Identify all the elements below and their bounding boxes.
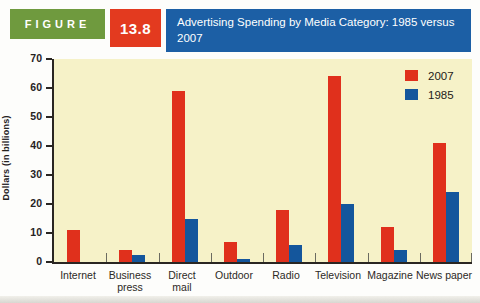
category-label-business-press: Businesspress bbox=[104, 269, 156, 294]
bar-1985-business-press bbox=[132, 255, 145, 262]
legend: 20071985 bbox=[405, 69, 454, 107]
category-label-television: Television bbox=[312, 269, 364, 294]
category-label-internet: Internet bbox=[52, 269, 104, 294]
x-tick-5 bbox=[315, 253, 316, 262]
figure-number-box: 13.8 bbox=[110, 9, 161, 47]
figure-title-text: Advertising Spending by Media Category: … bbox=[177, 16, 454, 44]
x-tick-1 bbox=[106, 253, 107, 262]
y-tick-label-60: 60 bbox=[8, 81, 42, 93]
page-edge-shadow bbox=[0, 296, 480, 303]
figure-header: FIGURE 13.8 Advertising Spending by Medi… bbox=[10, 9, 471, 52]
category-label-news-paper: News paper bbox=[416, 269, 472, 294]
legend-label-1985: 1985 bbox=[428, 89, 454, 101]
bar-2007-television bbox=[328, 76, 341, 262]
legend-swatch-2007 bbox=[405, 70, 418, 81]
bar-1985-magazine bbox=[394, 250, 407, 262]
x-tick-8 bbox=[471, 253, 472, 262]
figure-label-text: FIGURE bbox=[25, 18, 91, 30]
bar-1985-radio bbox=[289, 245, 302, 262]
category-label-radio: Radio bbox=[260, 269, 312, 294]
y-tick-label-40: 40 bbox=[8, 139, 42, 151]
x-axis-labels: InternetBusinesspressDirectmailOutdoorRa… bbox=[52, 269, 472, 294]
y-tick-label-50: 50 bbox=[8, 110, 42, 122]
category-label-outdoor: Outdoor bbox=[208, 269, 260, 294]
x-tick-7 bbox=[420, 253, 421, 262]
y-tick-label-20: 20 bbox=[8, 197, 42, 209]
bar-2007-magazine bbox=[381, 227, 394, 262]
legend-label-2007: 2007 bbox=[428, 70, 454, 82]
x-tick-4 bbox=[263, 253, 264, 262]
bar-2007-direct-mail bbox=[172, 91, 185, 262]
legend-item-2007: 2007 bbox=[405, 69, 454, 82]
figure-number-text: 13.8 bbox=[120, 20, 151, 37]
bar-2007-internet bbox=[67, 230, 80, 262]
bar-1985-outdoor bbox=[237, 259, 250, 262]
bar-2007-radio bbox=[276, 210, 289, 262]
x-tick-3 bbox=[211, 253, 212, 262]
category-label-magazine: Magazine bbox=[364, 269, 416, 294]
bar-1985-television bbox=[341, 204, 354, 262]
x-tick-2 bbox=[159, 253, 160, 262]
y-tick-label-30: 30 bbox=[8, 168, 42, 180]
figure-label-box: FIGURE bbox=[10, 9, 105, 39]
legend-swatch-1985 bbox=[405, 89, 418, 100]
y-tick-label-10: 10 bbox=[8, 226, 42, 238]
bar-2007-outdoor bbox=[224, 242, 237, 262]
scanned-figure-page: FIGURE 13.8 Advertising Spending by Medi… bbox=[0, 0, 480, 303]
category-label-direct-mail: Directmail bbox=[156, 269, 208, 294]
legend-item-1985: 1985 bbox=[405, 88, 454, 101]
bar-1985-direct-mail bbox=[185, 219, 198, 263]
y-tick-label-70: 70 bbox=[8, 52, 42, 64]
y-tick-label-0: 0 bbox=[8, 255, 42, 267]
bar-1985-news-paper bbox=[446, 192, 459, 262]
figure-title-bar: Advertising Spending by Media Category: … bbox=[166, 9, 471, 52]
bar-2007-news-paper bbox=[433, 143, 446, 262]
x-tick-6 bbox=[368, 253, 369, 262]
bar-2007-business-press bbox=[119, 250, 132, 262]
